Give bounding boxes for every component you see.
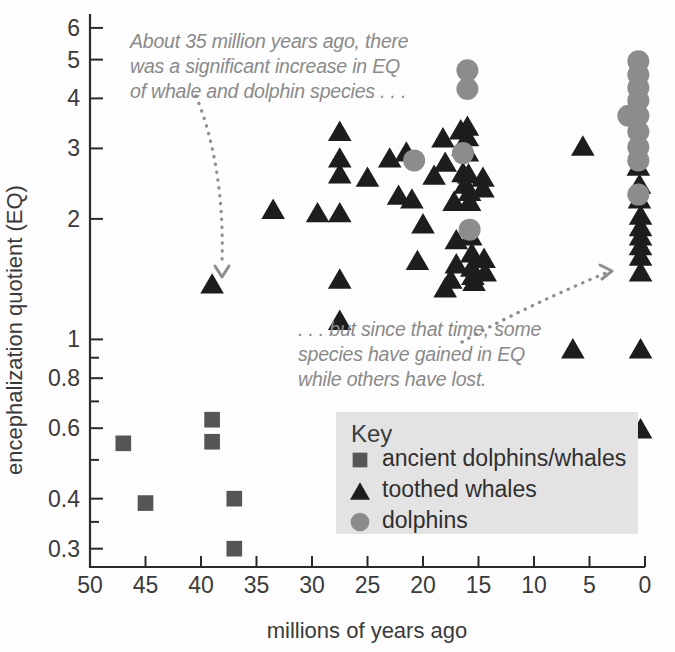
- data-point-circle: [456, 59, 478, 81]
- x-axis-title: millions of years ago: [267, 618, 468, 643]
- data-point-triangle: [306, 202, 330, 222]
- y-tick-label: 4: [67, 85, 80, 111]
- data-point-circle: [403, 149, 425, 171]
- y-tick-label: 6: [67, 15, 80, 41]
- x-tick-label: 30: [299, 572, 325, 598]
- data-point-square: [115, 435, 131, 451]
- series-ancient-dolphins-whales: [115, 412, 242, 557]
- x-tick-label: 45: [133, 572, 159, 598]
- data-point-triangle: [411, 213, 435, 233]
- data-point-square: [204, 412, 220, 428]
- annotation-divergence-text: . . . but since that time, some species …: [298, 318, 541, 390]
- annotation-increase-leader: [196, 96, 222, 262]
- data-point-circle: [452, 142, 474, 164]
- annotation-divergence-line-1: . . . but since that time, some: [298, 318, 541, 340]
- y-axis-ticks: 6543210.80.60.40.3: [48, 15, 103, 562]
- y-tick-label: 1: [67, 326, 80, 352]
- y-tick-label: 2: [67, 206, 80, 232]
- x-tick-label: 25: [355, 572, 381, 598]
- x-tick-label: 5: [583, 572, 596, 598]
- annotation-increase-arrowhead: [215, 266, 229, 277]
- scatter-plot: 50454035302520151050 6543210.80.60.40.3 …: [0, 0, 675, 652]
- data-point-circle: [459, 219, 481, 241]
- annotation-increase-text: About 35 million years ago, there was a …: [129, 30, 409, 102]
- x-tick-label: 20: [410, 572, 436, 598]
- y-tick-label: 0.6: [48, 415, 80, 441]
- annotation-divergence-arrowhead: [600, 265, 612, 279]
- data-point-circle: [627, 184, 649, 206]
- legend-marker-square: [353, 453, 368, 468]
- legend-title: Key: [351, 420, 392, 447]
- y-tick-label: 0.8: [48, 365, 80, 391]
- chart-page: 50454035302520151050 6543210.80.60.40.3 …: [0, 0, 675, 652]
- data-point-square: [138, 495, 154, 511]
- data-point-triangle: [328, 202, 352, 222]
- legend-entry-label: ancient dolphins/whales: [382, 445, 626, 471]
- data-point-triangle: [571, 135, 595, 155]
- annotation-increase-line-2: was a significant increase in EQ: [130, 55, 400, 77]
- data-point-triangle: [356, 166, 380, 186]
- data-point-circle: [456, 78, 478, 100]
- annotation-increase-line-3: of whale and dolphin species . . .: [130, 80, 406, 102]
- x-tick-label: 0: [639, 572, 652, 598]
- data-point-triangle: [406, 250, 430, 270]
- annotations-group: About 35 million years ago, there was a …: [129, 30, 612, 390]
- legend-entry-label: dolphins: [382, 507, 468, 533]
- annotation-divergence-line-2: species have gained in EQ: [298, 343, 525, 365]
- y-axis-title: encephalization quotient (EQ): [2, 185, 27, 475]
- annotation-increase-line-1: About 35 million years ago, there: [129, 30, 409, 52]
- y-tick-label: 0.3: [48, 536, 80, 562]
- y-tick-label: 3: [67, 135, 80, 161]
- data-point-square: [226, 491, 242, 507]
- y-tick-label: 0.4: [48, 486, 80, 512]
- data-point-circle: [627, 149, 649, 171]
- legend-entry-label: toothed whales: [382, 476, 537, 502]
- legend: Key ancient dolphins/whalestoothed whale…: [336, 412, 638, 534]
- data-point-triangle: [561, 338, 585, 358]
- x-axis-ticks: 50454035302520151050: [77, 556, 651, 598]
- x-tick-label: 10: [521, 572, 547, 598]
- x-tick-label: 35: [244, 572, 270, 598]
- data-point-triangle: [261, 199, 285, 219]
- data-point-triangle: [328, 268, 352, 288]
- y-tick-label: 5: [67, 47, 80, 73]
- x-tick-label: 15: [466, 572, 492, 598]
- data-point-triangle: [629, 338, 653, 358]
- data-point-triangle: [328, 121, 352, 141]
- annotation-divergence-line-3: while others have lost.: [298, 368, 486, 390]
- legend-marker-circle: [351, 513, 370, 532]
- x-tick-label: 40: [188, 572, 214, 598]
- data-point-square: [204, 434, 220, 450]
- data-point-square: [226, 541, 242, 557]
- x-tick-label: 50: [77, 572, 103, 598]
